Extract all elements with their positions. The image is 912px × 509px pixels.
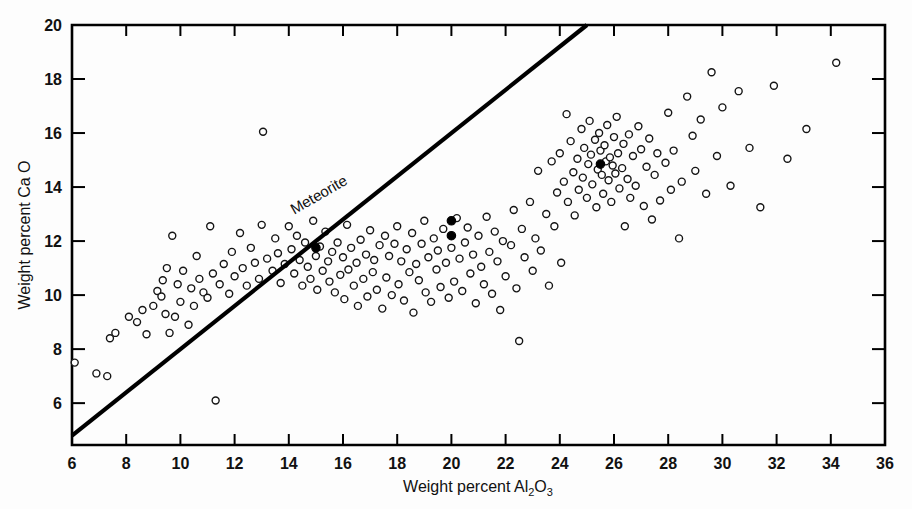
data-point-open [348, 244, 355, 251]
data-point-open [326, 278, 333, 285]
data-point-open [627, 194, 634, 201]
data-point-open [632, 182, 639, 189]
data-point-open [207, 223, 214, 230]
data-point-open [364, 293, 371, 300]
x-tick-label: 18 [388, 455, 406, 472]
data-point-open [112, 329, 119, 336]
data-point-open [592, 136, 599, 143]
y-tick-label: 18 [44, 71, 62, 88]
data-point-open [521, 254, 528, 261]
data-point-open [314, 286, 321, 293]
data-point-open [678, 178, 685, 185]
data-point-open [657, 197, 664, 204]
data-point-open [169, 232, 176, 239]
data-point-open [608, 198, 615, 205]
data-point-open [163, 265, 170, 272]
data-point-open [251, 259, 258, 266]
data-point-open [353, 259, 360, 266]
y-axis-title: Weight percent Ca O [16, 160, 33, 309]
x-tick-label: 36 [876, 455, 894, 472]
data-point-open [437, 283, 444, 290]
data-points-filled [312, 160, 605, 252]
data-point-open [606, 154, 613, 161]
data-point-open [735, 88, 742, 95]
annotation-layer: Meteorite [287, 171, 350, 217]
data-point-open [833, 59, 840, 66]
data-point-open [260, 128, 267, 135]
data-point-open [621, 223, 628, 230]
data-point-open [354, 302, 361, 309]
x-tick-label: 20 [443, 455, 461, 472]
data-point-open [239, 265, 246, 272]
data-point-open [620, 140, 627, 147]
data-point-open [442, 259, 449, 266]
y-tick-label: 8 [53, 341, 62, 358]
data-point-open [491, 228, 498, 235]
meteorite-line [72, 25, 587, 436]
data-point-open [247, 244, 254, 251]
y-tick-label: 12 [44, 233, 62, 250]
data-point-open [373, 286, 380, 293]
x-axis-title-sub-3: 3 [547, 486, 553, 498]
data-point-open [418, 240, 425, 247]
data-point-open [611, 134, 618, 141]
data-point-open [212, 397, 219, 404]
data-point-open [472, 300, 479, 307]
data-point-open [329, 248, 336, 255]
x-tick-label: 26 [605, 455, 623, 472]
y-tick-label: 16 [44, 125, 62, 142]
data-point-open [243, 282, 250, 289]
data-point-open [703, 190, 710, 197]
data-point-filled [596, 160, 604, 168]
data-point-open [421, 217, 428, 224]
data-point-open [448, 244, 455, 251]
data-point-open [784, 155, 791, 162]
x-tick-label: 22 [497, 455, 515, 472]
data-point-open [415, 277, 422, 284]
data-point-open [567, 138, 574, 145]
x-tick-label: 16 [334, 455, 352, 472]
x-tick-label: 8 [122, 455, 131, 472]
data-point-open [616, 185, 623, 192]
data-point-open [258, 221, 265, 228]
data-point-open [166, 329, 173, 336]
x-axis-title-oxygen: O [534, 478, 546, 495]
data-point-open [430, 235, 437, 242]
data-point-open [648, 216, 655, 223]
data-point-open [575, 186, 582, 193]
x-axis-title-prefix: Weight percent Al [403, 478, 528, 495]
data-point-open [190, 302, 197, 309]
data-point-open [625, 131, 632, 138]
data-point-open [357, 236, 364, 243]
data-point-open [583, 194, 590, 201]
data-point-open [478, 263, 485, 270]
data-point-open [600, 190, 607, 197]
data-point-open [406, 269, 413, 276]
data-points-open [71, 59, 840, 404]
data-point-open [605, 177, 612, 184]
data-point-open [125, 313, 132, 320]
data-point-open [543, 211, 550, 218]
data-point-open [615, 150, 622, 157]
data-point-open [545, 282, 552, 289]
data-point-open [334, 239, 341, 246]
data-point-open [174, 281, 181, 288]
data-point-open [383, 274, 390, 281]
data-point-open [299, 282, 306, 289]
data-point-open [604, 121, 611, 128]
data-point-open [293, 232, 300, 239]
data-point-open [662, 159, 669, 166]
x-tick-label: 12 [226, 455, 244, 472]
data-point-open [654, 150, 661, 157]
data-point-open [526, 198, 533, 205]
data-point-open [434, 247, 441, 254]
data-point-open [422, 289, 429, 296]
data-point-open [489, 290, 496, 297]
data-point-open [369, 269, 376, 276]
data-point-open [445, 294, 452, 301]
data-point-open [277, 279, 284, 286]
data-point-open [667, 186, 674, 193]
data-point-open [344, 221, 351, 228]
x-tick-label: 28 [659, 455, 677, 472]
x-tick-label: 10 [172, 455, 190, 472]
